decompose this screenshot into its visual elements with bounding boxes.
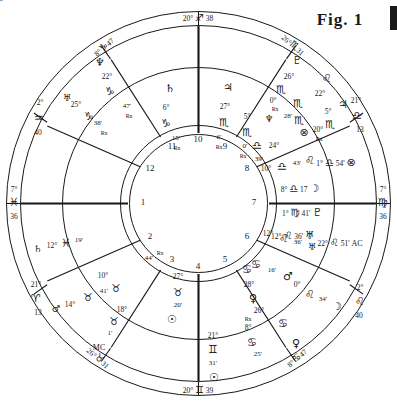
planet-neptune2-outer-sign: ♏	[293, 98, 303, 110]
cusp-label-5-glyph: ♎	[352, 110, 362, 122]
outer-leo43-deg: 10°	[261, 165, 272, 173]
house-number-9: 9	[223, 142, 228, 151]
planet-saturn-outer-deg: 12°	[47, 242, 58, 250]
outer-taurus44-rx: Rx	[157, 250, 163, 256]
planet-fortune-outer-sign: ♏	[294, 115, 304, 127]
outer-mars3-glyph: ♂	[52, 304, 61, 314]
planet-fortune-outer-glyph: ⊗	[299, 127, 308, 139]
planet-fortune-outer-deg: 20°	[313, 126, 324, 134]
planet-neptune2-outer-glyph: ♆	[265, 114, 274, 124]
angle-asc-deg: 7°	[380, 186, 387, 194]
mid-jupiter-rx: Rx	[216, 144, 222, 150]
angle-dsc-deg: 7°	[11, 186, 18, 194]
outer-taurus18-min: 1'	[108, 330, 113, 337]
cusp-label-1-glyph: ♈	[31, 293, 41, 305]
planet-neptune-outer-glyph: ♆	[95, 57, 105, 69]
angle-asc-glyph: ♍	[378, 197, 388, 209]
outer-uranus2-glyph: ♅	[308, 242, 317, 252]
mid-saturn-sign: ♑	[161, 118, 171, 130]
outer-libra24-deg: 24°	[269, 142, 280, 150]
planet-jupiter-outer-sign: ♏	[325, 119, 335, 131]
cusp-label-12-min: 40	[34, 129, 42, 137]
row-moon: 8° ♎ 17 ☽	[281, 183, 320, 195]
planet-neptune2-outer-rx: Rx	[272, 106, 278, 112]
mid-jupiter-sign: ♏	[219, 117, 229, 129]
outer-leo22-sign: ♌	[322, 73, 332, 85]
planet-jupiter-outer-deg: 5°	[325, 108, 332, 116]
mid-jupiter-deg: 27°	[220, 103, 231, 111]
mid-neptune-rx: Rx	[240, 153, 246, 159]
outer-leo0-sign: ♌	[305, 289, 315, 301]
outer-mars2-glyph: ♂	[283, 271, 293, 283]
mid-sun-glyph: ☉	[167, 314, 177, 326]
outer-venus2-glyph: ♀	[249, 293, 257, 305]
cusp-label-12-deg: 2°	[37, 99, 44, 107]
planet-saturn-outer-glyph: ♄	[34, 244, 43, 254]
mid-saturn-glyph: ♄	[165, 83, 175, 95]
outer-leo43-sign: ♎	[277, 161, 287, 173]
row-fortune: 1° ♎ 54' ⊗	[316, 157, 355, 169]
angle-asc-min: 36	[379, 213, 387, 221]
angle-dsc-min: 36	[10, 213, 18, 221]
mid-sun-min: 20'	[174, 302, 182, 309]
mid-neptune-sign: ♏	[242, 127, 252, 139]
outer-libra24-sign: ♎	[252, 140, 262, 152]
outer-cancer16-min: 16'	[268, 267, 276, 274]
outer-mc-label: MC	[93, 344, 105, 352]
planet-fortune-outer-rx: Rx	[316, 136, 322, 142]
outer-taurus18-deg: 18°	[117, 306, 128, 314]
cusp-label-12-glyph: ♒	[34, 113, 44, 125]
planet-pluto-outer-deg: 26°	[284, 73, 295, 81]
outer-cancer28-sign: ♋	[242, 264, 252, 276]
cusp-label-1-deg: 21°	[31, 281, 42, 289]
planet-neptune-outer-deg: 22°	[102, 73, 113, 81]
outer-taurus41-min: 41'	[100, 288, 108, 295]
cusp-label-1-min: 13	[34, 309, 42, 317]
house-number-11: 11	[168, 142, 177, 151]
outer-cancer8-deg: 8°	[245, 324, 252, 332]
planet-uranus-outer-sign: ♑	[84, 111, 94, 123]
planet-neptune2-outer-min: 28'	[284, 113, 292, 120]
outer-venus2-deg: 26°	[254, 307, 265, 315]
outer-cancer28-deg: 28°	[244, 281, 255, 289]
house-number-2: 2	[148, 232, 153, 241]
planet-uranus-outer-rx: Rx	[101, 130, 107, 136]
outer-mars3-deg: 14°	[65, 301, 76, 309]
outer-taurus18-sign: ♉	[109, 316, 119, 328]
outer-cancer16-sign: ♋	[251, 259, 261, 271]
planet-pluto-outer-sign: ♏	[276, 84, 286, 96]
house-number-7: 7	[252, 198, 257, 207]
angle-ic: 20° ♊ 39	[183, 385, 214, 396]
cusp-label-4-min: 40	[355, 312, 363, 320]
planet-neptune2-outer-deg: 0°	[270, 97, 277, 105]
chart-figure-page: Fig. 1	[0, 0, 397, 407]
house-number-3: 3	[170, 255, 175, 264]
outer-leo22-deg: 22°	[315, 90, 326, 98]
outer-taurus10-sign: ♉	[111, 283, 121, 295]
mid-sun-deg: 27°	[173, 273, 184, 281]
cusp-label-5-min: 13	[356, 126, 364, 134]
row-uranus: 12° ♌ 36' ♅	[271, 230, 315, 242]
mid-saturn-deg: 6°	[163, 104, 170, 112]
row-asc: 22° ♌ 51' AC	[317, 238, 362, 249]
outer-moon2-glyph: ☽	[332, 301, 342, 313]
planet-saturn-outer-min: 19'	[75, 237, 83, 244]
outer-saturnish-min: 47'	[123, 103, 131, 110]
mid-sun2-glyph: ☉	[209, 372, 219, 384]
outer-leo43-min: 43'	[293, 160, 301, 167]
mid-sun2-sign: ♊	[208, 344, 218, 356]
outer-cancer25-sign: ♋	[247, 337, 257, 349]
angle-mc: 20° ♐ 38	[183, 13, 214, 24]
mid-jupiter-glyph: ♃	[223, 82, 233, 94]
row-pluto: 1° ♍ 41' ♇	[282, 207, 322, 219]
outer-leo0-deg: 0°	[294, 281, 301, 289]
house-number-10: 10	[194, 135, 203, 144]
house-number-12: 12	[146, 164, 155, 173]
mid-sun2-deg: 21°	[208, 332, 219, 340]
outer-saturnish-rx: Rx	[126, 113, 132, 119]
cusp-label-5-deg: 21°	[351, 97, 362, 105]
outer-cancer58-min: 58'	[0, 0, 4, 4]
mid-neptune-deg: 5°	[244, 113, 251, 121]
planet-neptune-outer-sign: ♑	[105, 86, 115, 98]
outer-taurus10-deg: 10°	[98, 272, 109, 280]
